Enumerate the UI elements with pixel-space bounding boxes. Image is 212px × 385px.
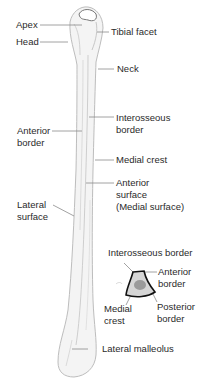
label-lateral-surface: Lateral surface [17, 199, 48, 223]
label-anterior-border: Anterior border [17, 125, 50, 149]
label-neck: Neck [117, 63, 139, 75]
label-interosseous-border: Interosseous border [116, 112, 170, 136]
label-cs-medial-crest: Medial crest [104, 303, 132, 327]
label-tibial-facet: Tibial facet [111, 26, 157, 38]
label-medial-crest: Medial crest [116, 154, 167, 166]
label-cs-posterior-border: Posterior border [157, 301, 195, 325]
label-cs-anterior-border: Anterior border [158, 266, 191, 290]
label-lateral-malleolus: Lateral malleolus [102, 343, 174, 355]
label-head: Head [16, 36, 39, 48]
label-cs-interosseous-border: Interosseous border [108, 247, 193, 259]
fibula-bone [58, 7, 103, 377]
fibula-cross-section [116, 271, 155, 297]
label-anterior-surface: Anterior surface (Medial surface) [116, 177, 184, 213]
label-apex: Apex [16, 19, 38, 31]
